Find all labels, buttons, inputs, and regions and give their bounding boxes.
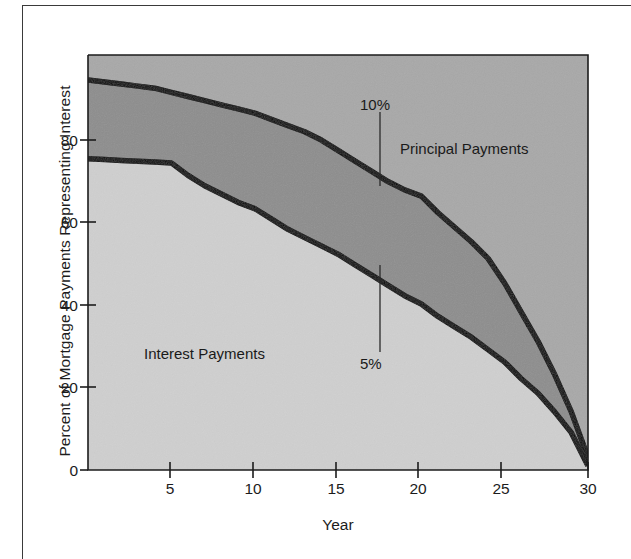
annotation-5-percent: 5% (360, 355, 382, 372)
annotation-interest-payments: Interest Payments (144, 345, 265, 362)
annotation-principal-payments: Principal Payments (400, 140, 528, 157)
mortgage-amortization-figure: Percent of Mortgage Payments Representin… (0, 0, 631, 559)
chart-plot-area (0, 0, 631, 559)
annotation-10-percent: 10% (360, 96, 390, 113)
